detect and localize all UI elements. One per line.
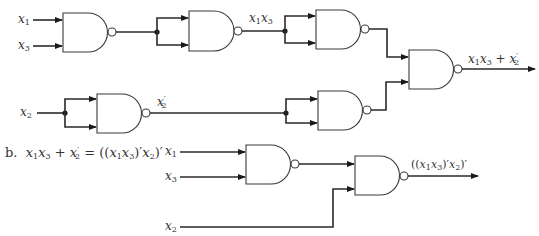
label-b-x3: x3	[165, 170, 177, 184]
nand-gate-a4	[97, 94, 286, 133]
label-x3: x3	[18, 39, 30, 53]
label-x2: x2	[20, 106, 32, 120]
nand-gate-b1	[246, 145, 354, 184]
label-x1: x1	[18, 13, 30, 27]
label-output-b: ((x1x3)′x2)′	[411, 159, 467, 172]
label-b-x2: x2	[165, 220, 177, 234]
label-b-x1: x1	[165, 145, 177, 159]
label-output-a: x1x3 + x′2	[468, 52, 519, 67]
nand-body	[63, 13, 108, 52]
part-b-equation: b. x1x3 + x′2 = ((x1x3)′x2)′	[5, 146, 163, 161]
nand-gate-a1	[33, 13, 157, 52]
nand-gate-a3	[316, 10, 408, 57]
logic-diagram: x1 x3 x2 x1x3 x′2 x1x3 + x′2 b. x1x3 + x…	[0, 0, 539, 236]
wire-b-x2-in	[180, 189, 354, 227]
circuit-svg	[0, 0, 539, 236]
inverter-bubble	[108, 28, 116, 36]
label-x2-prime: x′2	[157, 95, 167, 110]
label-x1x3: x1x3	[249, 12, 273, 26]
nand-gate-a5	[318, 82, 408, 130]
